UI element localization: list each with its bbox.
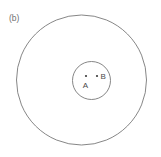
point-dot-a	[85, 75, 87, 77]
point-label-a: A	[83, 81, 89, 90]
figure-background	[0, 0, 161, 157]
figure-panel-b: (b) A B	[0, 0, 161, 157]
point-dot-b	[96, 75, 98, 77]
panel-label: (b)	[9, 13, 20, 23]
figure-canvas: (b) A B	[0, 0, 161, 157]
point-label-b: B	[101, 72, 106, 81]
